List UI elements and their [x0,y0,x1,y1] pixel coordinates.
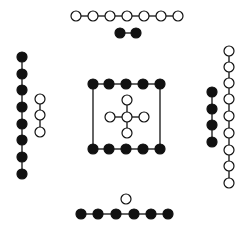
filled-node-left-filled-chain [17,52,27,62]
filled-node-center-bottom-filled-row [104,144,114,154]
open-node-top-open-chain [122,11,132,21]
open-node-right-open-chain [224,178,234,188]
filled-node-center-bottom-filled-row [88,144,98,154]
filled-node-left-filled-chain [17,102,27,112]
filled-node-bottom-filled-chain [111,209,121,219]
filled-node-bottom-filled-chain [93,209,103,219]
open-node-center-cross-arm [122,128,132,138]
open-node-right-open-chain [224,62,234,72]
filled-node-top-filled-pair [131,28,141,38]
open-node-left-open-chain [35,110,45,120]
molecule-graph-diagram [0,0,247,233]
open-node-top-open-chain [156,11,166,21]
filled-node-left-filled-chain [17,169,27,179]
filled-node-right-filled-chain [207,87,217,97]
filled-node-left-filled-chain [17,119,27,129]
open-node-right-open-chain [224,145,234,155]
open-node-center-cross-arm [105,112,115,122]
filled-node-center-top-filled-row [104,79,114,89]
filled-node-center-top-filled-row [138,79,148,89]
filled-node-right-filled-chain [207,104,217,114]
open-node-right-open-chain [224,78,234,88]
open-node-bottom-single-open [121,194,131,204]
open-node-top-open-chain [71,11,81,21]
filled-node-bottom-filled-chain [163,209,173,219]
open-node-right-open-chain [224,128,234,138]
open-node-center-cross-arm [139,112,149,122]
open-node-left-open-chain [35,94,45,104]
filled-node-bottom-filled-chain [76,209,86,219]
open-node-center-cross-arm [122,95,132,105]
open-node-right-open-chain [224,46,234,56]
open-node-right-open-chain [224,111,234,121]
filled-node-left-filled-chain [17,69,27,79]
open-node-top-open-chain [139,11,149,21]
filled-node-bottom-filled-chain [129,209,139,219]
filled-node-left-filled-chain [17,135,27,145]
open-node-top-open-chain [173,11,183,21]
filled-node-center-bottom-filled-row [138,144,148,154]
filled-node-left-filled-chain [17,85,27,95]
filled-node-center-top-filled-row [155,79,165,89]
filled-node-top-filled-pair [115,28,125,38]
open-node-top-open-chain [105,11,115,21]
filled-node-center-bottom-filled-row [155,144,165,154]
filled-node-center-bottom-filled-row [121,144,131,154]
filled-node-right-filled-chain [207,137,217,147]
open-node-right-open-chain [224,94,234,104]
filled-node-center-top-filled-row [121,79,131,89]
filled-node-left-filled-chain [17,152,27,162]
filled-node-right-filled-chain [207,120,217,130]
diagram-nodes [17,11,234,219]
open-node-left-open-chain [35,127,45,137]
open-node-center-cross-hub [122,112,132,122]
filled-node-center-top-filled-row [88,79,98,89]
filled-node-bottom-filled-chain [146,209,156,219]
open-node-top-open-chain [88,11,98,21]
open-node-right-open-chain [224,161,234,171]
